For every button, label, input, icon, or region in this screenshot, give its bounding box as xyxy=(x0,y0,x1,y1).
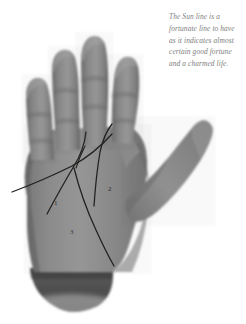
marker-1: 1 xyxy=(54,200,58,207)
photo-vignette xyxy=(26,294,118,318)
caption-line-4: certain good fortune xyxy=(169,46,246,58)
palmistry-figure: 1 2 3 The Sun line is a fortunate line t… xyxy=(0,0,246,324)
caption-line-1: The Sun line is a xyxy=(169,11,246,23)
caption-line-2: fortunate line to have xyxy=(169,23,246,35)
marker-3: 3 xyxy=(70,229,74,236)
sun-line-caption: The Sun line is a fortunate line to have… xyxy=(169,11,246,70)
caption-line-5: and a charmed life. xyxy=(169,58,246,70)
marker-2: 2 xyxy=(108,186,112,193)
caption-line-3: as it indicates almost xyxy=(169,35,246,47)
little-finger xyxy=(106,54,144,150)
